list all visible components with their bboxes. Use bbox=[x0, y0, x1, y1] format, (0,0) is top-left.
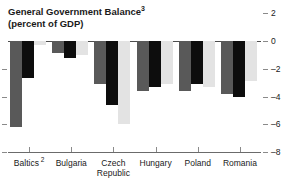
y-tick-right bbox=[263, 13, 268, 14]
bar bbox=[94, 41, 106, 84]
x-tick bbox=[156, 147, 157, 152]
chart-title-block: General Government Balance3 (percent of … bbox=[8, 6, 145, 30]
bar bbox=[221, 41, 233, 94]
x-tick bbox=[29, 147, 30, 152]
bar bbox=[64, 41, 76, 58]
x-axis-label-text: Hungary bbox=[140, 158, 172, 168]
x-tick bbox=[240, 147, 241, 152]
x-axis-label-footnote-marker: 2 bbox=[39, 156, 44, 163]
y-tick-label: 0 bbox=[271, 36, 276, 46]
x-axis-label: Hungary bbox=[140, 158, 172, 168]
x-tick bbox=[71, 147, 72, 152]
y-tick-right bbox=[263, 97, 268, 98]
bar bbox=[233, 41, 245, 97]
x-axis-label-text-line2: Republic bbox=[97, 168, 130, 178]
y-tick-label: –8 bbox=[271, 147, 280, 157]
y-tick-left bbox=[2, 152, 7, 153]
chart-title-footnote-marker: 3 bbox=[141, 5, 145, 12]
bar bbox=[245, 41, 257, 81]
chart-title: General Government Balance3 bbox=[8, 6, 145, 18]
x-axis-label-text: Romania bbox=[223, 158, 257, 168]
bar-group bbox=[10, 41, 46, 152]
plot-area bbox=[8, 41, 261, 152]
bar bbox=[52, 41, 64, 53]
bar-group bbox=[52, 41, 88, 152]
x-axis-label-text: Bulgaria bbox=[56, 158, 87, 168]
y-tick-right bbox=[263, 41, 268, 42]
x-axis-label: Romania bbox=[223, 158, 257, 168]
x-axis-label-text: Poland bbox=[185, 158, 211, 168]
bar bbox=[76, 41, 88, 55]
y-tick-left bbox=[2, 97, 7, 98]
chart-container: General Government Balance3 (percent of … bbox=[0, 0, 293, 184]
y-tick-right bbox=[263, 152, 268, 153]
y-tick-right bbox=[263, 124, 268, 125]
chart-title-text: General Government Balance bbox=[8, 6, 141, 17]
x-axis-label: Poland bbox=[185, 158, 211, 168]
bar bbox=[191, 41, 203, 84]
bar bbox=[10, 41, 22, 127]
x-axis-label: Bulgaria bbox=[56, 158, 87, 168]
bar bbox=[34, 41, 46, 45]
bar bbox=[179, 41, 191, 91]
bar bbox=[137, 41, 149, 91]
y-tick-label: –4 bbox=[271, 92, 280, 102]
x-axis-label-text: Czech bbox=[101, 158, 125, 168]
bottom-axis-line bbox=[8, 152, 261, 153]
y-tick-left bbox=[2, 124, 7, 125]
bar bbox=[22, 41, 34, 78]
bar bbox=[149, 41, 161, 87]
x-tick bbox=[113, 147, 114, 152]
y-tick-left bbox=[2, 69, 7, 70]
x-axis-label: Baltics 2 bbox=[14, 158, 44, 168]
bar-group bbox=[137, 41, 173, 152]
y-tick-label: 2 bbox=[271, 8, 276, 18]
bar-group bbox=[179, 41, 215, 152]
bar-group bbox=[94, 41, 130, 152]
x-tick bbox=[198, 147, 199, 152]
x-axis-label: CzechRepublic bbox=[97, 158, 130, 178]
y-tick-label: –2 bbox=[271, 64, 280, 74]
bar-group bbox=[221, 41, 257, 152]
bar bbox=[118, 41, 130, 124]
y-tick-label: –6 bbox=[271, 119, 280, 129]
bar bbox=[203, 41, 215, 87]
x-axis-label-text: Baltics bbox=[14, 158, 39, 168]
bar bbox=[161, 41, 173, 84]
chart-subtitle: (percent of GDP) bbox=[8, 18, 145, 30]
bar bbox=[106, 41, 118, 105]
y-tick-right bbox=[263, 69, 268, 70]
